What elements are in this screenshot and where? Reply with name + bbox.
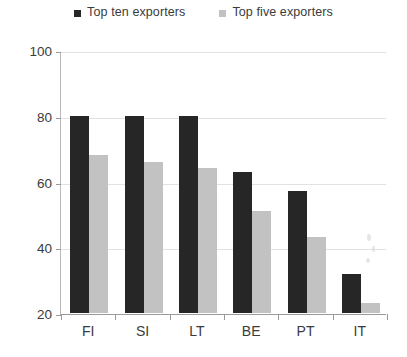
bar-be-series-0[interactable]: [233, 172, 252, 313]
bar-si-series-1[interactable]: [144, 162, 163, 313]
bar-group-si: [125, 52, 163, 313]
x-axis-tick: [170, 314, 171, 320]
y-axis-tick: [56, 249, 61, 250]
x-axis-label-si: SI: [136, 324, 149, 338]
bar-it-series-0[interactable]: [342, 274, 361, 313]
x-axis-tick: [115, 314, 116, 320]
bar-lt-series-1[interactable]: [198, 168, 217, 313]
scan-speckle: [367, 234, 371, 241]
bar-group-be: [233, 52, 271, 313]
x-axis-label-lt: LT: [189, 324, 204, 338]
bar-fi-series-0[interactable]: [70, 116, 89, 313]
bar-pt-series-1[interactable]: [307, 237, 326, 313]
bar-group-pt: [288, 52, 326, 313]
x-axis-tick: [61, 314, 62, 320]
bar-be-series-1[interactable]: [252, 211, 271, 313]
x-axis-tick: [278, 314, 279, 320]
bar-lt-series-0[interactable]: [179, 116, 198, 313]
bar-group-it: [342, 52, 380, 313]
x-axis-label-it: IT: [354, 324, 366, 338]
x-axis-label-be: BE: [242, 324, 261, 338]
y-axis-tick-label: 60: [37, 177, 52, 191]
y-axis-tick-label: 40: [37, 243, 52, 257]
bar-it-series-1[interactable]: [361, 303, 380, 313]
legend-entry-0[interactable]: Top ten exporters: [74, 5, 185, 19]
bar-series-container: [62, 52, 386, 313]
y-axis-tick-label: 80: [37, 111, 52, 125]
legend-swatch-icon: [219, 10, 226, 17]
x-axis-label-pt: PT: [297, 324, 315, 338]
bar-fi-series-1[interactable]: [89, 155, 108, 313]
plot-area: 20406080100 FISILTBEPTIT: [60, 52, 386, 315]
bar-si-series-0[interactable]: [125, 116, 144, 313]
x-axis-label-fi: FI: [82, 324, 94, 338]
y-axis-tick: [56, 52, 61, 53]
x-axis-tick: [333, 314, 334, 320]
bar-pt-series-0[interactable]: [288, 191, 307, 313]
legend-label: Top five exporters: [232, 5, 332, 19]
y-axis-tick: [56, 184, 61, 185]
bar-group-lt: [179, 52, 217, 313]
scan-speckle: [366, 258, 370, 263]
y-axis-tick: [56, 118, 61, 119]
legend-label: Top ten exporters: [87, 5, 185, 19]
bar-group-fi: [70, 52, 108, 313]
legend-swatch-icon: [74, 10, 81, 17]
legend-entry-1[interactable]: Top five exporters: [219, 5, 332, 19]
bar-chart: 20406080100 FISILTBEPTIT: [0, 24, 407, 357]
x-axis-tick: [387, 314, 388, 320]
x-axis-tick: [224, 314, 225, 320]
y-axis-tick-label: 100: [29, 45, 52, 59]
scan-speckle: [372, 246, 375, 252]
chart-legend: Top ten exportersTop five exporters: [0, 0, 407, 24]
y-axis-tick-label: 20: [37, 308, 52, 322]
